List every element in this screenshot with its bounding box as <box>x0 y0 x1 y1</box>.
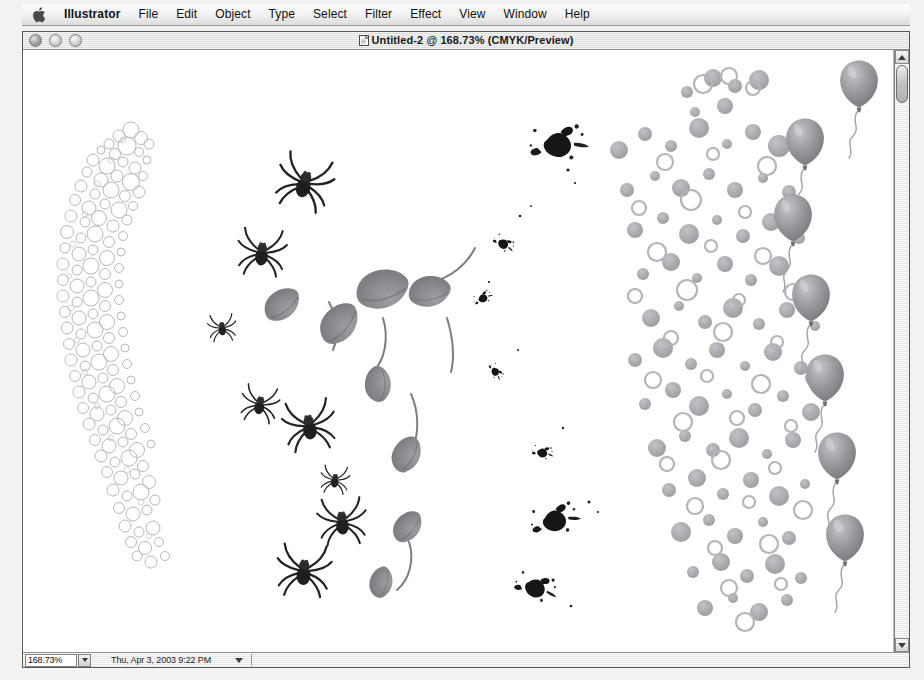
balloon-brush-stroke <box>774 60 878 612</box>
menu-item-file[interactable]: File <box>129 4 167 25</box>
scroll-down-arrow-button[interactable] <box>895 638 909 652</box>
canvas-viewport[interactable] <box>23 50 894 652</box>
artboard[interactable] <box>23 50 893 652</box>
vertical-scrollbar[interactable] <box>894 50 909 652</box>
zoom-level-field[interactable]: 168.73% <box>25 654 77 667</box>
status-popup-button[interactable] <box>233 654 245 666</box>
zoom-button[interactable] <box>69 34 82 47</box>
chevron-down-icon <box>235 658 243 663</box>
window-title-bar[interactable]: Untitled-2 @ 168.73% (CMYK/Preview) <box>23 32 909 50</box>
window-title-label: Untitled-2 @ 168.73% (CMYK/Preview) <box>372 34 574 46</box>
window-controls <box>29 34 82 47</box>
document-window: Untitled-2 @ 168.73% (CMYK/Preview) <box>22 31 910 668</box>
menu-item-view[interactable]: View <box>450 4 494 25</box>
status-info-text: Thu, Apr 3, 2003 9:22 PM <box>111 655 211 665</box>
spider-brush-stroke <box>207 150 368 598</box>
menu-item-illustrator[interactable]: Illustrator <box>55 4 129 25</box>
menu-item-effect[interactable]: Effect <box>401 4 450 25</box>
chevron-down-icon <box>82 658 88 662</box>
ink-splatter-stroke <box>472 124 599 607</box>
menu-item-type[interactable]: Type <box>260 4 304 25</box>
menu-item-edit[interactable]: Edit <box>167 4 206 25</box>
menu-item-help[interactable]: Help <box>556 4 599 25</box>
menu-item-object[interactable]: Object <box>206 4 259 25</box>
scroll-up-arrow-button[interactable] <box>895 50 909 64</box>
minimize-button[interactable] <box>49 34 62 47</box>
zoom-popup-button[interactable] <box>78 654 91 667</box>
menu-bar: Illustrator File Edit Object Type Select… <box>22 4 910 26</box>
document-icon <box>359 35 369 48</box>
menu-item-select[interactable]: Select <box>304 4 356 25</box>
zoom-level-value: 168.73% <box>28 655 62 665</box>
vertical-scroll-thumb[interactable] <box>896 65 908 103</box>
menu-item-filter[interactable]: Filter <box>356 4 401 25</box>
confetti-dots-stroke <box>610 68 820 631</box>
chevron-up-icon <box>898 55 906 60</box>
menu-item-window[interactable]: Window <box>495 4 556 25</box>
chevron-down-icon <box>898 643 906 648</box>
status-divider <box>251 654 252 666</box>
status-bar: 168.73% Thu, Apr 3, 2003 9:22 PM <box>23 652 909 667</box>
close-button[interactable] <box>29 34 42 47</box>
bubble-brush-stroke <box>57 122 170 568</box>
window-title: Untitled-2 @ 168.73% (CMYK/Preview) <box>23 34 909 48</box>
apple-logo-icon[interactable] <box>32 6 48 24</box>
illustrator-application-screen: Illustrator File Edit Object Type Select… <box>0 0 924 680</box>
